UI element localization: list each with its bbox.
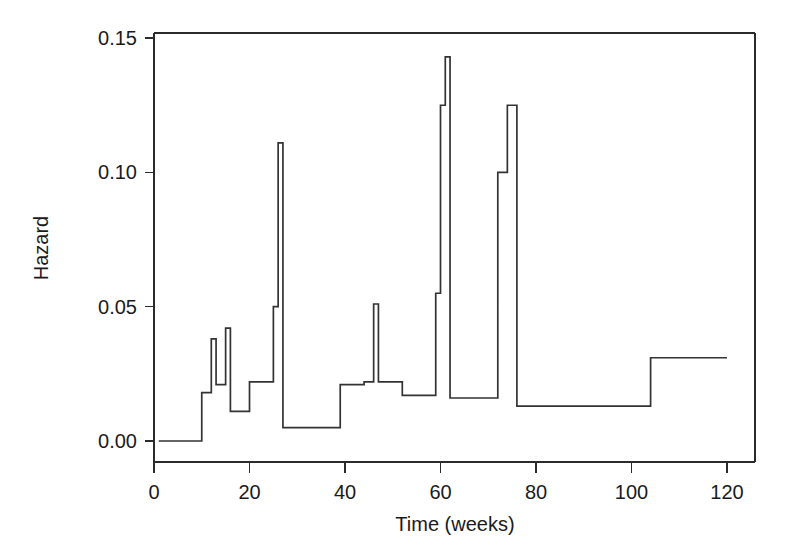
x-tick-label: 100 bbox=[615, 481, 648, 503]
x-tick-label: 60 bbox=[429, 481, 451, 503]
y-tick-group: 0.000.050.100.15 bbox=[98, 27, 154, 452]
x-tick-label: 0 bbox=[148, 481, 159, 503]
x-tick-label: 40 bbox=[334, 481, 356, 503]
x-tick-label: 80 bbox=[525, 481, 547, 503]
x-axis-title: Time (weeks) bbox=[395, 513, 514, 535]
y-tick-label: 0.15 bbox=[98, 27, 137, 49]
hazard-step-chart: 0.000.050.100.15 020406080100120 Time (w… bbox=[0, 0, 791, 560]
hazard-step-line bbox=[159, 57, 727, 441]
y-tick-label: 0.10 bbox=[98, 161, 137, 183]
chart-canvas: 0.000.050.100.15 020406080100120 Time (w… bbox=[0, 0, 791, 560]
x-tick-label: 20 bbox=[238, 481, 260, 503]
y-axis-title: Hazard bbox=[30, 216, 52, 280]
x-tick-label: 120 bbox=[710, 481, 743, 503]
y-tick-label: 0.05 bbox=[98, 296, 137, 318]
y-tick-label: 0.00 bbox=[98, 430, 137, 452]
x-tick-group: 020406080100120 bbox=[148, 462, 743, 503]
